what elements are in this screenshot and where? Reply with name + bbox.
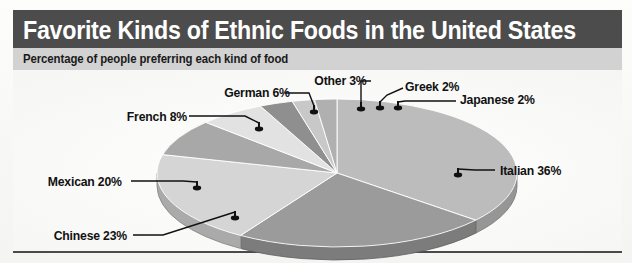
leader-dot-chinese xyxy=(231,216,239,221)
chart-subtitle: Percentage of people preferring each kin… xyxy=(23,50,288,68)
label-greek: Greek 2% xyxy=(405,79,459,94)
leader-dot-mexican xyxy=(193,186,201,191)
leader-dot-italian xyxy=(454,173,462,178)
leader-dot-french xyxy=(255,127,263,132)
label-chinese: Chinese 23% xyxy=(54,228,127,243)
pie-slices xyxy=(157,99,517,247)
label-german: German 6% xyxy=(224,85,290,100)
label-mexican: Mexican 20% xyxy=(48,174,122,189)
label-japanese: Japanese 2% xyxy=(460,92,535,107)
leader-dot-japanese xyxy=(394,106,402,111)
title-bar: Favorite Kinds of Ethnic Foods in the Un… xyxy=(13,10,622,48)
plot-area: Italian 36% Chinese 23% Mexican 20% Fren… xyxy=(13,70,622,251)
chart-title: Favorite Kinds of Ethnic Foods in the Un… xyxy=(23,14,576,46)
leader-dot-greek xyxy=(376,106,384,111)
label-other: Other 3% xyxy=(314,73,366,88)
subtitle-bar: Percentage of people preferring each kin… xyxy=(13,48,622,70)
leader-dot-german xyxy=(310,110,318,115)
chart-figure: LISTENING LISTENING Favorite Kinds of Et… xyxy=(0,0,632,263)
label-italian: Italian 36% xyxy=(500,163,561,178)
leader-dot-other xyxy=(357,107,365,112)
label-french: French 8% xyxy=(127,109,187,124)
